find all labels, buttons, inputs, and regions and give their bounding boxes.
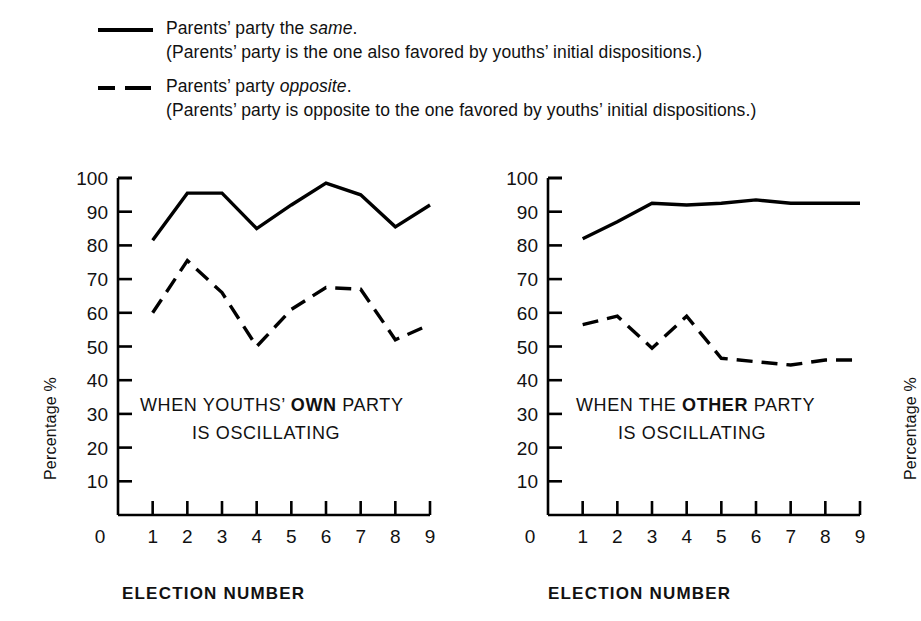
legend-title-same-emphasis: same <box>309 18 352 38</box>
x-axis-tick-label: 5 <box>716 526 727 547</box>
line-chart-own-party: 1020304050607080901000123456789WHEN YOUT… <box>10 140 450 570</box>
y-axis-tick-label: 90 <box>517 202 538 223</box>
y-axis-tick-label: 50 <box>87 337 108 358</box>
legend-entry-same: Parents’ party the same. (Parents’ party… <box>98 16 702 64</box>
chart-panel-right: 1020304050607080901000123456789WHEN THE … <box>440 140 880 620</box>
x-axis-tick-label: 7 <box>355 526 366 547</box>
plot-annotation-line1-post: PARTY <box>337 395 404 415</box>
x-axis-tick-label: 8 <box>390 526 401 547</box>
x-axis-tick-label: 1 <box>147 526 158 547</box>
y-axis-tick-label: 70 <box>87 269 108 290</box>
y-axis-tick-label: 50 <box>517 337 538 358</box>
y-axis-tick-label: 40 <box>87 370 108 391</box>
y-axis-label-right: Percentage % <box>902 377 920 480</box>
plot-annotation-line1-bold: OTHER <box>682 395 748 415</box>
plot-annotation-line1-pre: WHEN YOUTHS’ <box>140 395 291 415</box>
legend-title-opposite-prefix: Parents’ party <box>166 76 280 96</box>
x-axis-tick-label: 3 <box>217 526 228 547</box>
y-axis-tick-label: 30 <box>87 404 108 425</box>
legend-title-same-prefix: Parents’ party the <box>166 18 309 38</box>
legend-title-opposite-emphasis: opposite <box>280 76 347 96</box>
legend-entry-opposite: Parents’ party opposite. (Parents’ party… <box>98 74 756 122</box>
x-axis-tick-label: 2 <box>182 526 193 547</box>
plot-annotation-line1-bold: OWN <box>291 395 337 415</box>
y-axis-tick-label: 100 <box>76 168 108 189</box>
x-axis-tick-label: 9 <box>855 526 866 547</box>
y-axis-tick-label: 60 <box>517 303 538 324</box>
x-axis-label-left: ELECTION NUMBER <box>122 584 305 604</box>
legend-title-opposite-suffix: . <box>347 76 352 96</box>
y-axis-tick-label: 20 <box>517 438 538 459</box>
x-axis-tick-label: 0 <box>525 526 536 547</box>
x-axis-label-right: ELECTION NUMBER <box>548 584 731 604</box>
line-chart-other-party: 1020304050607080901000123456789WHEN THE … <box>440 140 880 570</box>
x-axis-tick-label: 0 <box>95 526 106 547</box>
y-axis-tick-label: 10 <box>87 471 108 492</box>
plot-annotation-line1-pre: WHEN THE <box>576 395 682 415</box>
plot-annotation-line2: IS OSCILLATING <box>618 423 766 443</box>
x-axis-tick-label: 7 <box>785 526 796 547</box>
y-axis-tick-label: 60 <box>87 303 108 324</box>
y-axis-tick-label: 40 <box>517 370 538 391</box>
plot-annotation-line1-post: PARTY <box>748 395 815 415</box>
y-axis-tick-label: 90 <box>87 202 108 223</box>
y-axis-tick-label: 20 <box>87 438 108 459</box>
x-axis-tick-label: 8 <box>820 526 831 547</box>
x-axis-tick-label: 4 <box>251 526 262 547</box>
x-axis-tick-label: 9 <box>425 526 436 547</box>
plot-annotation-line2: IS OSCILLATING <box>192 423 340 443</box>
y-axis-tick-label: 30 <box>517 404 538 425</box>
data-line-same <box>153 183 430 240</box>
y-axis-tick-label: 70 <box>517 269 538 290</box>
legend-title-opposite: Parents’ party opposite. <box>166 74 756 98</box>
data-line-opposite <box>153 261 430 347</box>
y-axis-tick-label: 10 <box>517 471 538 492</box>
y-axis-tick-label: 100 <box>506 168 538 189</box>
x-axis-tick-label: 6 <box>321 526 332 547</box>
x-axis-tick-label: 2 <box>612 526 623 547</box>
x-axis-tick-label: 6 <box>751 526 762 547</box>
plot-annotation-line1: WHEN THE OTHER PARTY <box>576 395 815 415</box>
x-axis-tick-label: 5 <box>286 526 297 547</box>
plot-annotation-line1: WHEN YOUTHS’ OWN PARTY <box>140 395 404 415</box>
legend-title-same-suffix: . <box>352 18 357 38</box>
y-axis-tick-label: 80 <box>517 235 538 256</box>
legend: Parents’ party the same. (Parents’ party… <box>0 8 921 128</box>
x-axis-tick-label: 4 <box>681 526 692 547</box>
data-line-opposite <box>583 316 860 365</box>
y-axis-tick-label: 80 <box>87 235 108 256</box>
legend-subtitle-same: (Parents’ party is the one also favored … <box>166 40 702 64</box>
x-axis-tick-label: 3 <box>647 526 658 547</box>
data-line-same <box>583 200 860 239</box>
legend-title-same: Parents’ party the same. <box>166 16 702 40</box>
legend-swatch-solid-line-icon <box>98 20 156 40</box>
x-axis-tick-label: 1 <box>577 526 588 547</box>
y-axis-label-left: Percentage % <box>42 377 60 480</box>
legend-swatch-dashed-line-icon <box>98 78 156 98</box>
legend-subtitle-opposite: (Parents’ party is opposite to the one f… <box>166 98 756 122</box>
chart-panel-left: 1020304050607080901000123456789WHEN YOUT… <box>10 140 450 620</box>
